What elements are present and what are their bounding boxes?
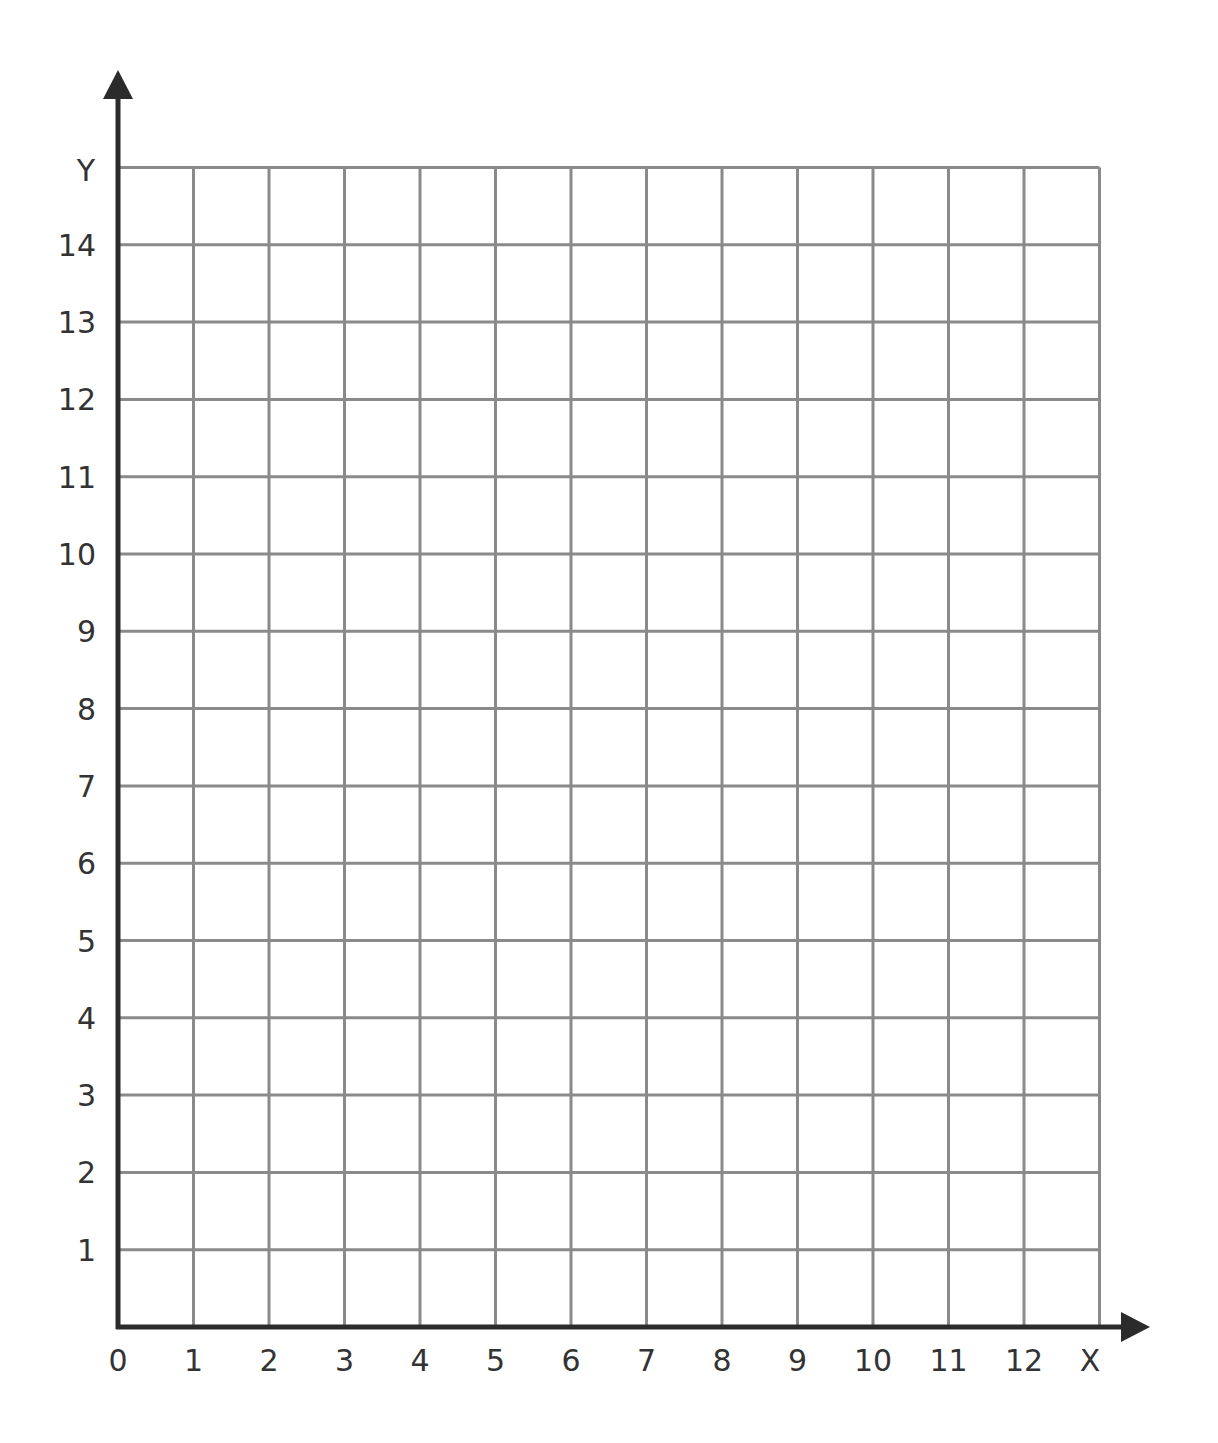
- y-tick-label: 6: [77, 846, 96, 881]
- y-tick-label: 5: [77, 924, 96, 959]
- y-tick-label: 4: [77, 1001, 96, 1036]
- y-tick-label: 14: [58, 228, 96, 263]
- x-tick-label: 12: [1005, 1343, 1043, 1378]
- y-tick-label: 12: [58, 382, 96, 417]
- x-tick-label: 1: [184, 1343, 203, 1378]
- y-tick-labels: 1234567891011121314: [58, 228, 96, 1268]
- x-tick-label: 6: [561, 1343, 580, 1378]
- y-tick-label: 2: [77, 1155, 96, 1190]
- origin-label: 0: [108, 1343, 127, 1378]
- axes: [103, 70, 1150, 1342]
- y-tick-label: 8: [77, 692, 96, 727]
- y-tick-label: 13: [58, 305, 96, 340]
- y-tick-label: 11: [58, 460, 96, 495]
- x-tick-label: 5: [486, 1343, 505, 1378]
- y-axis-label: Y: [76, 153, 96, 188]
- y-tick-label: 9: [77, 614, 96, 649]
- y-tick-label: 1: [77, 1233, 96, 1268]
- x-tick-label: 3: [335, 1343, 354, 1378]
- x-axis-label: X: [1080, 1343, 1101, 1378]
- x-tick-label: 8: [712, 1343, 731, 1378]
- x-tick-label: 9: [788, 1343, 807, 1378]
- grid-lines: [118, 168, 1100, 1328]
- coordinate-grid-chart: 123456789101112 1234567891011121314 0 X …: [0, 0, 1218, 1443]
- x-tick-labels: 123456789101112: [184, 1343, 1043, 1378]
- x-tick-label: 10: [854, 1343, 892, 1378]
- y-tick-label: 3: [77, 1078, 96, 1113]
- x-axis-arrow-icon: [1121, 1312, 1150, 1342]
- y-tick-label: 7: [77, 769, 96, 804]
- x-tick-label: 11: [929, 1343, 967, 1378]
- x-tick-label: 4: [410, 1343, 429, 1378]
- x-tick-label: 7: [637, 1343, 656, 1378]
- y-tick-label: 10: [58, 537, 96, 572]
- x-tick-label: 2: [259, 1343, 278, 1378]
- y-axis-arrow-icon: [103, 70, 133, 99]
